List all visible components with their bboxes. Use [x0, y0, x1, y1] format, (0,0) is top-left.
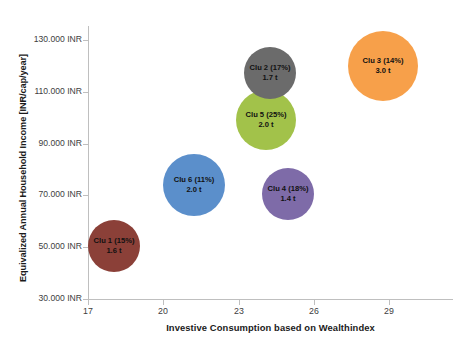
x-axis-tick-label: 29 — [369, 306, 409, 316]
x-axis-tick — [163, 300, 164, 305]
y-axis-tick — [83, 92, 88, 93]
y-axis-title: Equivalized Annual Household Income [INR… — [12, 18, 34, 318]
bubble-clu-3[interactable]: Clu 3 (14%)3.0 t — [348, 31, 418, 101]
bubble-value: 2.0 t — [258, 120, 273, 130]
y-axis-line — [88, 26, 89, 300]
bubble-clu-4[interactable]: Clu 4 (18%)1.4 t — [262, 168, 314, 220]
bubble-clu-2[interactable]: Clu 2 (17%)1.7 t — [244, 47, 296, 99]
y-axis-tick-label: 130.000 INR — [10, 34, 82, 44]
bubble-label: Clu 4 (18%) — [268, 184, 309, 194]
bubble-label: Clu 2 (17%) — [250, 63, 291, 73]
bubble-label: Clu 6 (11%) — [174, 175, 215, 185]
x-axis-tick-label: 20 — [143, 306, 183, 316]
y-axis-tick-label: 50.000 INR — [10, 241, 82, 251]
bubble-clu-1[interactable]: Clu 1 (15%)1.6 t — [88, 220, 140, 272]
x-axis-tick — [389, 300, 390, 305]
x-axis-tick — [314, 300, 315, 305]
bubble-value: 1.4 t — [280, 194, 295, 204]
bubble-label: Clu 1 (15%) — [94, 236, 135, 246]
x-axis-tick — [88, 300, 89, 305]
bubble-value: 3.0 t — [375, 66, 390, 76]
y-axis-tick — [83, 144, 88, 145]
bubble-label: Clu 5 (25%) — [246, 110, 287, 120]
bubble-value: 1.7 t — [262, 73, 277, 83]
x-axis-tick-label: 17 — [68, 306, 108, 316]
bubble-clu-5[interactable]: Clu 5 (25%)2.0 t — [236, 90, 296, 150]
y-axis-tick — [83, 195, 88, 196]
x-axis-tick-label: 26 — [294, 306, 334, 316]
y-axis-tick-label: 90.000 INR — [10, 138, 82, 148]
x-axis-tick-label: 23 — [219, 306, 259, 316]
bubble-value: 1.6 t — [106, 246, 121, 256]
y-axis-tick-label: 110.000 INR — [10, 86, 82, 96]
y-axis-tick-label: 30.000 INR — [10, 293, 82, 303]
y-axis-tick — [83, 40, 88, 41]
y-axis-tick-label: 70.000 INR — [10, 189, 82, 199]
x-axis-line — [88, 299, 453, 300]
x-axis-tick — [239, 300, 240, 305]
bubble-value: 2.0 t — [186, 185, 201, 195]
bubble-label: Clu 3 (14%) — [363, 56, 404, 66]
bubble-clu-6[interactable]: Clu 6 (11%)2.0 t — [163, 154, 225, 216]
x-axis-title: Investive Consumption based on Wealthind… — [88, 322, 453, 333]
bubble-chart: Equivalized Annual Household Income [INR… — [0, 0, 457, 347]
